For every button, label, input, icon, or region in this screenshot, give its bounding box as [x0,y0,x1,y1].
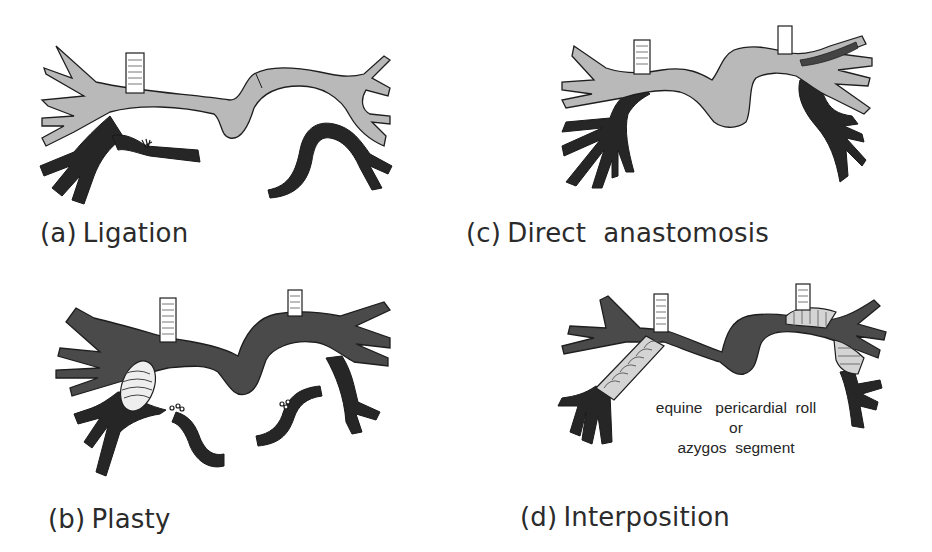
branch-tube-icon [654,294,668,332]
ligature-knot-icon [170,404,184,411]
caption-tag: (b) [48,504,85,534]
branch-tube-icon [160,298,176,342]
caption-tag: (a) [40,218,77,248]
annotation-line-1: equine pericardial roll [626,398,846,418]
graft-annotation: equine pericardial roll or azygos segmen… [626,398,846,458]
branch-tube-icon [796,284,810,310]
caption-title: Direct anastomosis [507,218,769,248]
caption-title: Ligation [83,218,189,248]
caption-d: (d)Interposition [520,502,730,532]
caption-c: (c)Direct anastomosis [466,218,769,248]
caption-a: (a)Ligation [40,218,188,248]
vein-shapes [40,116,392,204]
panel-a-ligation: (a)Ligation [0,0,466,276]
caption-tag: (d) [520,502,557,532]
branch-tube-icon [288,290,302,316]
panel-c-direct-anastomosis: (c)Direct anastomosis [466,0,932,276]
caption-title: Plasty [91,504,170,534]
panel-d-interposition: equine pericardial roll or azygos segmen… [466,276,932,552]
caption-title: Interposition [563,502,730,532]
branch-tube-icon [126,53,144,93]
caption-b: (b)Plasty [48,504,171,534]
branch-tube-icon [634,40,650,74]
branch-tube-icon [778,26,792,54]
annotation-line-2: or [626,418,846,438]
panel-b-plasty: (b)Plasty [0,276,466,552]
caption-tag: (c) [466,218,501,248]
interposition-graft [786,308,836,328]
ligature-knot-icon [280,400,290,409]
annotation-line-3: azygos segment [626,438,846,458]
